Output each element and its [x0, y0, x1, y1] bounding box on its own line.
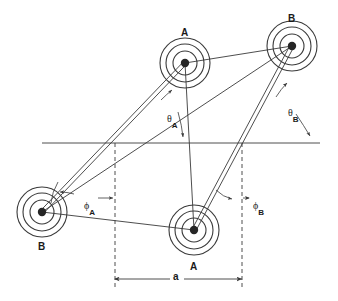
- wheel-A-top: [160, 38, 210, 88]
- phi-B-subscript: B: [258, 208, 264, 217]
- dimension-label-a: a: [173, 272, 179, 282]
- angle-label-theta-A: θA: [167, 109, 178, 128]
- angle-phi-B-arc: [216, 190, 249, 199]
- node-label-A-top: A: [181, 28, 189, 38]
- node-label-B-bottom: B: [38, 242, 46, 252]
- angle-label-phi-A: ϕA: [84, 196, 95, 215]
- hub-A-top: [181, 59, 189, 67]
- link-B-bottom-to-B-top: [42, 46, 292, 212]
- hub-B-bottom: [38, 208, 46, 216]
- phi-A-subscript: A: [89, 208, 95, 217]
- node-label-A-bottom: A: [190, 262, 198, 272]
- hub-A-bottom: [190, 226, 198, 234]
- kinematic-diagram-svg: [0, 0, 338, 301]
- node-label-B-top: B: [288, 14, 296, 24]
- angle-label-theta-B: θB: [288, 103, 299, 122]
- link-A-top-to-B-top: [185, 46, 292, 63]
- wheel-A-bottom: [169, 205, 219, 255]
- wheel-B-top: [267, 21, 317, 71]
- wheel-B-bottom: [17, 187, 67, 237]
- theta-B-subscript: B: [293, 115, 299, 124]
- angle-label-phi-B: ϕB: [253, 196, 264, 215]
- link-B-bottom-to-A-top: [41, 62, 187, 214]
- figure-canvas: A B B A a θA θB ϕA ϕB: [0, 0, 338, 301]
- hub-B-top: [288, 42, 296, 50]
- theta-A-subscript: A: [172, 121, 178, 130]
